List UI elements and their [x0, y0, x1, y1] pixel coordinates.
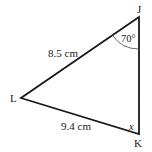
- vertex-label-l: L: [10, 92, 17, 104]
- angle-label-j: 70°: [121, 33, 136, 44]
- angle-label-k: x: [128, 121, 134, 132]
- side-label-lk: 9.4 cm: [61, 120, 91, 132]
- vertex-label-k: K: [134, 137, 142, 149]
- triangle-diagram: J L K 8.5 cm 9.4 cm 70° x: [0, 0, 152, 152]
- vertex-label-j: J: [137, 3, 142, 15]
- side-label-jl: 8.5 cm: [48, 47, 78, 59]
